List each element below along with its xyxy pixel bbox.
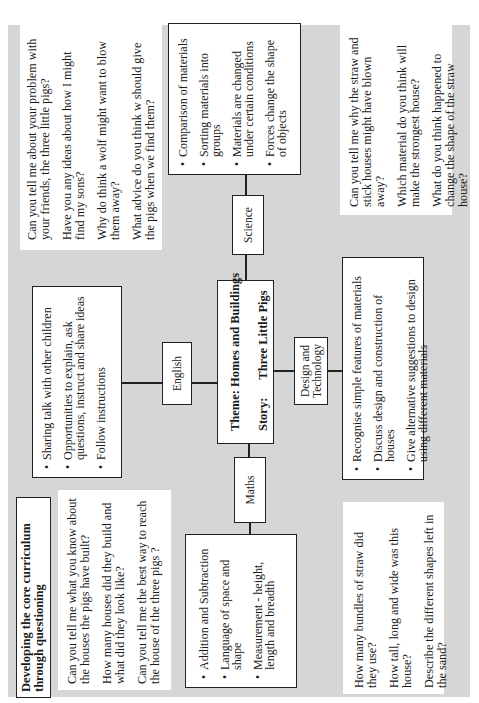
question: How many houses did they build and what … [101, 496, 127, 684]
connector-english-theme [191, 383, 217, 385]
question: What advice do you think w should give t… [131, 33, 157, 240]
connector-dt-list [327, 371, 342, 373]
science-topic: Sorting materials into groups [198, 32, 223, 166]
science-label: Science [242, 207, 254, 243]
questions-panel-maths: How many bundles of straw did they use? … [343, 502, 444, 694]
question: Have you any ideas about how I might fin… [61, 33, 87, 240]
science-topic: Forces change the shape of objects [264, 32, 289, 166]
maths-node: Maths [234, 457, 266, 523]
questions-panel-story: Can you tell me about your problem with … [20, 25, 162, 250]
question: Can you tell me what you know about the … [66, 496, 92, 684]
english-topic: Opportunities to explain, ask questions,… [62, 295, 87, 469]
story-row: Story: Three Little Pigs [256, 293, 270, 431]
dt-label-line1: Design and [299, 345, 311, 397]
question: How many bundles of straw did they use? [353, 508, 379, 688]
questions-panel-science: Can you tell me why the straw and stick … [340, 25, 452, 215]
connector-english-list [122, 383, 162, 385]
title-line2: through questioning [33, 503, 46, 692]
maths-topic: Measurement - height, length and breadth [252, 543, 277, 679]
maths-topic: Addition and Subtraction [198, 543, 211, 679]
english-node: English [162, 342, 192, 405]
science-topics-box: Comparison of materials Sorting material… [168, 23, 301, 175]
connector-theme-maths [248, 444, 250, 457]
diagram-title-box: Developing the core curriculum through q… [16, 497, 51, 698]
question: Which material do you think will make th… [396, 31, 422, 207]
question: Can you tell me why the straw and stick … [348, 31, 387, 207]
connector-maths-list [249, 523, 251, 534]
question: Can you tell me the best way to reach th… [136, 496, 162, 684]
theme-title: Theme: Homes and Buildings [228, 293, 242, 431]
english-topic: Sharing talk with other children [41, 295, 54, 469]
english-label: English [171, 356, 183, 391]
maths-topics-box: Addition and Subtraction Language of spa… [185, 534, 297, 688]
curriculum-diagram: Can you tell me about your problem with … [0, 0, 479, 703]
science-topic: Materials are changed under certain cond… [231, 32, 256, 166]
science-topic: Comparison of materials [177, 32, 190, 166]
story-value: Three Little Pigs [256, 290, 270, 379]
question: Can you tell me about your problem with … [26, 33, 52, 240]
question: How tall, long and wide was this house? [388, 508, 414, 688]
dt-topic: Give alternative suggestions to design u… [405, 266, 430, 471]
science-node: Science [232, 195, 264, 255]
connector-science-list [245, 175, 247, 195]
question: Describe the different shapes left in th… [423, 508, 449, 688]
story-label: Story: [256, 398, 270, 431]
english-topic: Follow instructions [95, 295, 108, 469]
english-topics-box: Sharing talk with other children Opportu… [32, 286, 122, 478]
theme-box: Theme: Homes and Buildings Story: Three … [217, 280, 274, 444]
dt-label-line2: Technology [311, 344, 323, 398]
maths-label: Maths [244, 476, 256, 505]
connector-theme-science [245, 255, 247, 281]
questions-panel-general: Can you tell me what you know about the … [58, 490, 171, 690]
question: Why do think a wolf might want to blow t… [96, 33, 122, 240]
connector-theme-dt [273, 371, 294, 373]
dt-topic: Discuss design and construction of house… [372, 266, 397, 471]
maths-topic: Language of space and shape [219, 543, 244, 679]
design-technology-node: Design and Technology [294, 337, 328, 405]
design-technology-topics-box: Recognise simple features of materials D… [342, 257, 424, 480]
question: What do you think happened to change the… [431, 31, 470, 207]
dt-topic: Recognise simple features of materials [351, 266, 364, 471]
